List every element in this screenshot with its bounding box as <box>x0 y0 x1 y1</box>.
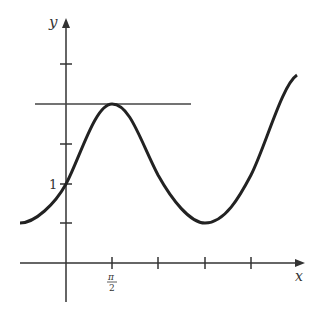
x-axis-label: x <box>295 268 303 284</box>
y-axis-label: y <box>48 13 58 31</box>
y-tick-label-1: 1 <box>49 177 57 192</box>
x-tick-label-pi: π <box>107 272 115 282</box>
sinusoid-curve <box>20 75 297 223</box>
x-tick-label-2: 2 <box>109 283 115 293</box>
y-axis-arrow-icon <box>62 18 70 28</box>
graph: y x 1 π 2 <box>0 0 314 309</box>
x-axis-arrow-icon <box>295 259 305 267</box>
